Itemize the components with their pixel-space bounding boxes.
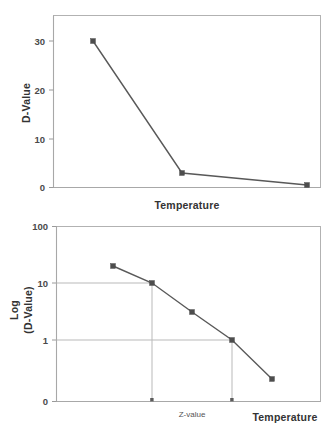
thermal-death-time-figure: 30 20 10 0 D-Value Temperature [0,0,336,435]
d-value-linear-chart: 30 20 10 0 D-Value Temperature [0,0,336,218]
chart-panel-top: 30 20 10 0 D-Value Temperature [0,0,336,218]
data-point-2 [150,281,155,286]
plot-frame [57,227,321,402]
log-d-value-chart: 100 10 1 0 Log (D-Value) Z-valu [0,218,336,435]
y-tick-label-10: 10 [37,278,48,289]
y-tick-label-1: 1 [43,335,49,346]
data-point-1 [111,264,116,269]
data-point-4 [230,338,235,343]
y-axis-title: D-Value [20,83,32,123]
x-axis-title: Temperature [252,411,317,423]
data-point-5 [270,377,275,382]
data-point-1 [91,39,96,44]
y-tick-label-30: 30 [34,36,45,47]
data-point-3 [305,183,310,188]
y-tick-label-20: 20 [34,85,45,96]
y-tick-label-0: 0 [40,182,45,193]
y-tick-label-10: 10 [34,134,45,145]
y-axis-title-line1: Log [8,300,20,320]
z-value-left-endpoint-marker [150,398,153,401]
y-axis-title-line2: (D-Value) [22,286,34,333]
data-series-line [93,41,307,185]
z-value-right-endpoint-marker [230,398,233,401]
y-tick-label-0: 0 [43,396,48,407]
chart-panel-bottom: 100 10 1 0 Log (D-Value) Z-valu [0,218,336,435]
x-axis-title: Temperature [154,199,219,211]
data-point-3 [190,310,195,315]
z-value-label: Z-value [179,410,206,419]
data-point-2 [180,171,185,176]
y-tick-label-100: 100 [32,221,48,232]
